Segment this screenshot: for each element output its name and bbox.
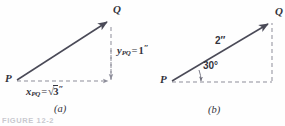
point-p-label-a: P — [5, 73, 12, 84]
panel-a-graphics — [17, 22, 111, 81]
x-equals: = — [40, 86, 48, 97]
point-q-label-b: Q — [275, 6, 283, 17]
inch-mark-x: ″ — [58, 84, 63, 94]
y-component-label-a: yPQ=1″ — [117, 44, 149, 57]
caption-a: (a) — [54, 103, 66, 114]
point-q-label-a: Q — [113, 4, 121, 15]
caption-b: (b) — [208, 104, 220, 115]
magnitude-label-b: 2″ — [215, 35, 225, 46]
y-equals: = — [131, 45, 139, 56]
vector-pq-a — [17, 22, 107, 80]
angle-arc-b — [199, 70, 201, 81]
figure-number-footer: FIGURE 12-2 — [2, 116, 122, 125]
vector-diagram-svg — [0, 0, 285, 126]
x-subscript: PQ — [31, 90, 40, 98]
inch-mark-y: ″ — [144, 43, 149, 53]
x-component-label-a: xPQ=√3″ — [26, 85, 63, 98]
figure-container: P Q xPQ=√3″ yPQ=1″ (a) P Q 2″ 30° (b) FI… — [0, 0, 285, 126]
y-subscript: PQ — [122, 49, 131, 57]
sqrt-group: √3 — [48, 86, 58, 98]
radicand-value: 3 — [53, 85, 58, 97]
vector-pq-b — [172, 24, 268, 81]
point-p-label-b: P — [160, 74, 167, 85]
panel-b-graphics — [172, 23, 272, 82]
angle-label-b: 30° — [203, 60, 218, 71]
